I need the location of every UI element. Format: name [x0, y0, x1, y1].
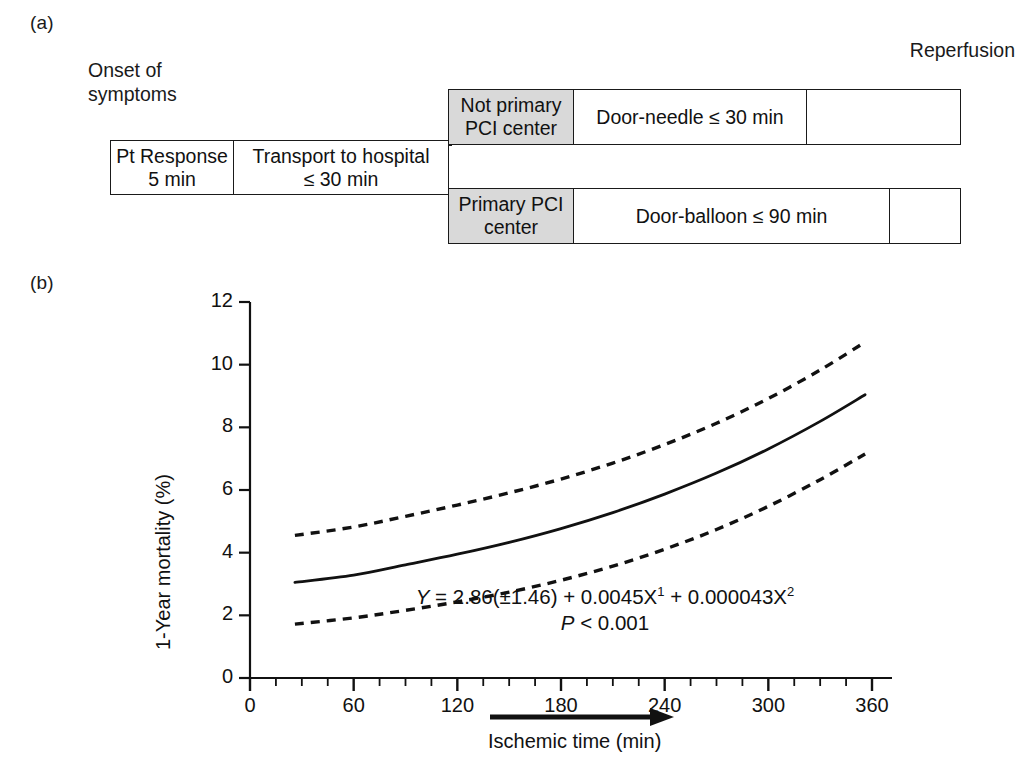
- x-axis-ticks: [250, 678, 872, 691]
- equation-line-1: Y = 2.86(±1.46) + 0.0045X1 + 0.000043X2: [405, 579, 805, 610]
- y-axis-title: 1-Year mortality (%): [152, 474, 175, 650]
- reperfusion-label: Reperfusion: [845, 38, 1015, 62]
- box-top-reperfusion-tail: [806, 89, 961, 145]
- flow-diagram-panel: (a) Onset of symptoms Reperfusion Not pr…: [0, 0, 1035, 270]
- equation-p-value: < 0.001: [575, 611, 650, 634]
- y-tick-label: 10: [187, 352, 233, 375]
- equation-body-2: + 0.000043X: [664, 585, 787, 608]
- y-tick-label: 6: [187, 477, 233, 500]
- equation-body-1: = 2.86(±1.46) + 0.0045X: [429, 585, 657, 608]
- box-bottom-reperfusion-tail: [889, 188, 961, 244]
- equation-exponent-2: 2: [787, 584, 794, 599]
- equation-y-symbol: Y: [416, 585, 430, 608]
- onset-of-symptoms-label: Onset of symptoms: [88, 58, 177, 106]
- x-tick-label: 360: [832, 694, 912, 717]
- y-tick-label: 8: [187, 414, 233, 437]
- x-tick-label: 60: [314, 694, 394, 717]
- y-tick-label: 12: [187, 289, 233, 312]
- y-tick-label: 4: [187, 540, 233, 563]
- box-door-needle: Door-needle ≤ 30 min: [573, 89, 807, 145]
- box-primary-pci-center: Primary PCI center: [448, 188, 574, 244]
- equation-p-symbol: P: [561, 611, 575, 634]
- x-tick-label: 120: [417, 694, 497, 717]
- regression-equation: Y = 2.86(±1.46) + 0.0045X1 + 0.000043X2 …: [405, 579, 805, 636]
- equation-line-2: P < 0.001: [405, 610, 805, 636]
- box-door-balloon: Door-balloon ≤ 90 min: [573, 188, 890, 244]
- box-pt-response: Pt Response 5 min: [110, 140, 234, 195]
- x-tick-label: 0: [210, 694, 290, 717]
- box-transport-to-hospital: Transport to hospital ≤ 30 min: [233, 140, 449, 195]
- x-axis-title: Ischemic time (min): [488, 730, 661, 753]
- series-curve: [295, 342, 865, 535]
- y-axis-ticks: [239, 302, 250, 678]
- mortality-chart-panel: (b) 024681012 060120180240300360 1-Year …: [0, 262, 1035, 762]
- x-tick-label: 300: [728, 694, 808, 717]
- x-tick-label: 180: [521, 694, 601, 717]
- y-tick-label: 2: [187, 602, 233, 625]
- panel-a-label: (a): [30, 12, 54, 34]
- y-tick-label: 0: [187, 665, 233, 688]
- x-tick-label: 240: [625, 694, 705, 717]
- box-not-primary-pci-center: Not primary PCI center: [448, 89, 574, 145]
- series-curve: [295, 395, 865, 583]
